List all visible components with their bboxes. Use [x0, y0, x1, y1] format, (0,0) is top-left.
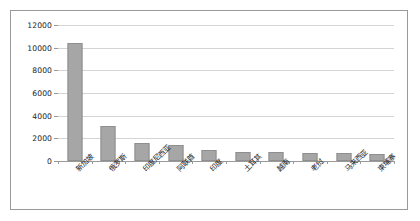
bar-slot [327, 25, 361, 161]
y-tick-label: 10000 [27, 43, 52, 52]
bar-slot [360, 25, 394, 161]
bar-slot [293, 25, 327, 161]
y-tick-label: 0 [47, 157, 52, 166]
x-tick-mark [226, 161, 227, 164]
bar[interactable] [101, 126, 116, 161]
bar-slot [92, 25, 126, 161]
bar-slot [226, 25, 260, 161]
y-tick-label: 8000 [32, 66, 52, 75]
x-tick-mark [58, 161, 59, 164]
x-tick-mark [327, 161, 328, 164]
chart-frame: 020004000600080001000012000 新加坡俄罗斯印度尼西亚阿… [10, 10, 408, 210]
x-axis: 新加坡俄罗斯印度尼西亚阿联酋印度土耳其越南老挝马来西亚柬埔寨 [58, 161, 394, 211]
bar-slot [260, 25, 294, 161]
bar-slot [125, 25, 159, 161]
bar-series [58, 25, 394, 161]
y-tick-label: 12000 [27, 21, 52, 30]
y-tick-label: 2000 [32, 134, 52, 143]
y-tick-label: 4000 [32, 111, 52, 120]
bar-slot [192, 25, 226, 161]
bar[interactable] [67, 43, 82, 161]
plot-area: 020004000600080001000012000 [58, 25, 394, 161]
bar-slot [58, 25, 92, 161]
x-tick-mark [293, 161, 294, 164]
y-tick-label: 6000 [32, 89, 52, 98]
